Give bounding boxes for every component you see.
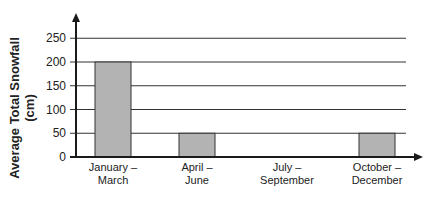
y-axis-arrow-icon — [72, 13, 80, 22]
y-tick-label: 200 — [46, 55, 66, 69]
y-axis-label: Average Total Snowfall (cm) — [2, 20, 42, 195]
bar — [359, 133, 395, 157]
y-axis-label-line-1: Average Total Snowfall — [7, 37, 22, 179]
x-tick-label-q3: July – September — [242, 161, 332, 187]
y-tick-label: 150 — [46, 79, 66, 93]
y-tick-label: 100 — [46, 103, 66, 117]
y-axis-label-line-2: (cm) — [22, 37, 37, 179]
y-tick-label: 50 — [53, 126, 67, 140]
y-tick-label: 250 — [46, 31, 66, 45]
y-tick-labels: 050100150200250 — [46, 31, 66, 164]
x-tick-label-q2: April – June — [152, 161, 242, 187]
x-axis-arrow-icon — [414, 153, 423, 161]
y-tick-label: 0 — [59, 150, 66, 164]
x-tick-label-q1: January – March — [68, 161, 158, 187]
x-tick-label-q4: October – December — [332, 161, 422, 187]
bar — [179, 133, 215, 157]
bar — [95, 62, 131, 157]
